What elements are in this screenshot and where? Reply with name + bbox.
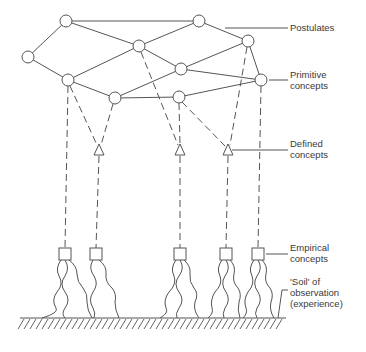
label-primitive-line1: Primitive [290, 69, 328, 80]
label-soil-line2: observation [290, 287, 343, 298]
label-defined-line2: concepts [290, 149, 328, 160]
empirical-concept-squares [59, 248, 264, 260]
label-soil-line3: (experience) [290, 298, 343, 309]
label-primitive-line2: concepts [290, 80, 328, 91]
label-leader-lines [225, 28, 288, 318]
soil-ground [18, 318, 286, 329]
observation-squiggles [42, 260, 274, 318]
label-soil-of-observation: 'Soil' of observation (experience) [290, 276, 343, 309]
postulate-network [28, 21, 261, 98]
label-soil-line1: 'Soil' of [290, 276, 343, 287]
label-empirical-line1: Empirical [290, 242, 329, 253]
label-empirical-concepts: Empirical concepts [290, 242, 329, 264]
label-postulates: Postulates [290, 22, 334, 33]
label-primitive-concepts: Primitive concepts [290, 69, 328, 91]
label-empirical-line2: concepts [290, 253, 329, 264]
label-defined-line1: Defined [290, 138, 328, 149]
label-defined-concepts: Defined concepts [290, 138, 328, 160]
defined-concept-triangles [94, 144, 233, 155]
